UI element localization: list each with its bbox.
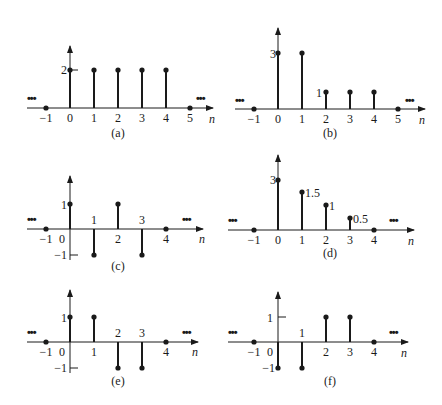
- panel-caption: (a): [111, 126, 124, 140]
- svg-text:−1: −1: [248, 112, 261, 126]
- y-tick-label: 3: [270, 173, 276, 187]
- panel-e: 1 −1 ••• ••• −1 0 1 2 3 4 n (e): [27, 290, 198, 388]
- svg-text:2: 2: [115, 111, 121, 125]
- svg-text:−1: −1: [40, 345, 53, 359]
- svg-text:3: 3: [347, 233, 353, 247]
- ellipsis-right: •••: [182, 213, 192, 225]
- panel-c: 1 −1 ••• ••• −1 0 1 2 3 4 n (c): [27, 176, 205, 273]
- ellipsis-right: •••: [405, 94, 415, 106]
- svg-text:4: 4: [371, 112, 377, 126]
- svg-text:0: 0: [59, 345, 65, 359]
- svg-text:5: 5: [395, 112, 401, 126]
- ellipsis-left: •••: [228, 214, 238, 226]
- value-label: 0.5: [353, 212, 368, 226]
- y-tick-label: 1: [267, 311, 273, 325]
- panel-caption: (e): [111, 374, 124, 388]
- ellipsis-left: •••: [27, 213, 37, 225]
- ellipsis-left: •••: [228, 326, 238, 338]
- svg-text:−1: −1: [248, 233, 261, 247]
- ellipsis-left: •••: [27, 326, 37, 338]
- ellipsis-left: •••: [27, 92, 37, 104]
- ellipsis-right: •••: [389, 214, 399, 226]
- axis-label-n: n: [408, 234, 414, 248]
- value-label: 1: [329, 199, 335, 213]
- svg-text:3: 3: [139, 111, 145, 125]
- svg-text:2: 2: [323, 233, 329, 247]
- svg-text:0: 0: [275, 233, 281, 247]
- svg-text:3: 3: [347, 345, 353, 359]
- svg-text:1: 1: [91, 111, 97, 125]
- svg-text:1: 1: [299, 326, 305, 340]
- ellipsis-right: •••: [182, 326, 192, 338]
- panel-d: 3 1.5 1 0.5 ••• ••• −1 0 1 2 3 4 n (: [228, 155, 414, 260]
- svg-text:4: 4: [371, 345, 377, 359]
- value-label: 1.5: [305, 186, 320, 200]
- svg-text:5: 5: [187, 111, 193, 125]
- svg-text:4: 4: [371, 233, 377, 247]
- svg-text:−1: −1: [40, 111, 53, 125]
- axis-label-n: n: [419, 113, 425, 127]
- svg-text:2: 2: [323, 345, 329, 359]
- svg-text:−1: −1: [40, 232, 53, 246]
- svg-text:3: 3: [139, 213, 145, 227]
- stems: [278, 53, 374, 109]
- svg-text:−1: −1: [248, 345, 261, 359]
- svg-text:2: 2: [323, 112, 329, 126]
- panel-b: 3 1 ••• ••• −1 0 1 2 3 4 5 n: [235, 28, 425, 140]
- svg-text:1: 1: [299, 233, 305, 247]
- ellipsis-right: •••: [196, 92, 206, 104]
- stems: [70, 70, 166, 108]
- svg-text:3: 3: [139, 326, 145, 340]
- svg-text:2: 2: [115, 232, 121, 246]
- y-tick-label: −1: [54, 248, 67, 262]
- y-tick-label: 1: [61, 311, 67, 325]
- svg-text:0: 0: [275, 112, 281, 126]
- panel-caption: (f): [324, 374, 336, 388]
- stem-plots-figure: 2 ••• ••• −1 0 1 2 3 4 5 n (: [0, 0, 442, 405]
- ellipsis-left: •••: [235, 94, 245, 106]
- svg-text:0: 0: [59, 232, 65, 246]
- svg-text:4: 4: [163, 111, 169, 125]
- x-tick-labels: −1 0 1 2 3 4: [248, 233, 377, 247]
- svg-text:1: 1: [91, 213, 97, 227]
- y-tick-label: −1: [262, 361, 275, 375]
- x-tick-labels: −1 0 1 2 3 4 5: [248, 112, 401, 126]
- axis-label-n: n: [209, 112, 215, 126]
- svg-text:1: 1: [299, 112, 305, 126]
- axis-label-n: n: [199, 232, 205, 246]
- panel-caption: (b): [323, 126, 337, 140]
- svg-text:1: 1: [91, 345, 97, 359]
- svg-text:2: 2: [115, 326, 121, 340]
- panel-caption: (d): [323, 246, 337, 260]
- svg-text:4: 4: [163, 345, 169, 359]
- y-tick-label: 3: [270, 47, 276, 61]
- panel-a: 2 ••• ••• −1 0 1 2 3 4 5 n (: [27, 46, 215, 140]
- panel-caption: (c): [111, 259, 124, 273]
- y-tick-label: 1: [61, 198, 67, 212]
- axis-label-n: n: [401, 346, 407, 360]
- svg-text:0: 0: [267, 345, 273, 359]
- panel-f: 1 −1 ••• ••• −1 0 1 2 3 4 n (f): [228, 292, 408, 388]
- ellipsis-right: •••: [389, 326, 399, 338]
- y-tick-label: −1: [54, 361, 67, 375]
- y-tick-label: 2: [61, 63, 67, 77]
- x-tick-labels: −1 0 1 2 3 4 5: [40, 111, 193, 125]
- svg-text:3: 3: [347, 112, 353, 126]
- svg-text:4: 4: [163, 232, 169, 246]
- value-label: 1: [316, 86, 322, 100]
- axis-label-n: n: [192, 345, 198, 359]
- svg-text:0: 0: [67, 111, 73, 125]
